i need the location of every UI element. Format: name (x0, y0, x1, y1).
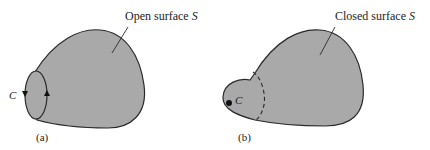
curve-label-a: C (9, 89, 17, 101)
point-c-dot (226, 100, 232, 106)
open-surface-shape (29, 30, 145, 128)
curve-c-ellipse (25, 71, 47, 119)
surface-label-a: Open surface S (125, 9, 198, 23)
figure-a: Open surface S C (a) (9, 9, 198, 144)
closed-surface-shape (223, 30, 363, 126)
curve-label-b: C (235, 94, 243, 106)
diagram-canvas: Open surface S C (a) Closed surface S C … (0, 0, 430, 150)
caption-b: (b) (238, 131, 251, 144)
figure-b: Closed surface S C (b) (223, 9, 415, 144)
surface-label-b: Closed surface S (335, 9, 415, 23)
caption-a: (a) (36, 131, 49, 144)
